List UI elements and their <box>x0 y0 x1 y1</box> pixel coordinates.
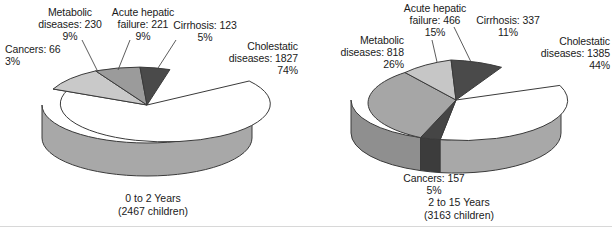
chart-panel-0-to-2-years: Metabolic diseases: 230 9% Acute hepatic… <box>0 0 306 230</box>
caption-title-left: 0 to 2 Years <box>125 192 180 204</box>
caption-subtitle-right: (3163 children) <box>424 209 494 221</box>
caption-title-right: 2 to 15 Years <box>428 196 489 208</box>
label-cholestatic-right: Cholestatic diseases: 1385 44% <box>496 35 610 72</box>
label-cholestatic-left: Cholestatic diseases: 1827 74% <box>186 40 298 77</box>
bottom-divider <box>0 226 612 227</box>
leader-line-cirrhosis <box>158 40 176 68</box>
caption-0-to-2-years: 0 to 2 Years(2467 children) <box>0 192 306 218</box>
caption-2-to-15-years: 2 to 15 Years(3163 children) <box>306 196 612 222</box>
slice-top-cirrhosis-right <box>451 60 501 100</box>
label-cancers-right: Cancers: 157 5% <box>374 172 494 196</box>
label-metabolic-right: Metabolic diseases: 818 26% <box>306 34 404 71</box>
side-wall-cancers <box>421 138 441 173</box>
pie-top-faces-right <box>368 60 568 141</box>
caption-subtitle-left: (2467 children) <box>118 205 188 217</box>
chart-panel-2-to-15-years: Acute hepatic failure: 466 15% Cirrhosis… <box>306 0 612 230</box>
label-cancers-left: Cancers: 66 3% <box>5 43 95 67</box>
pie-top-faces-left <box>53 67 270 142</box>
leader-line-acute-right <box>432 40 437 62</box>
leader-line-acute <box>118 40 130 70</box>
